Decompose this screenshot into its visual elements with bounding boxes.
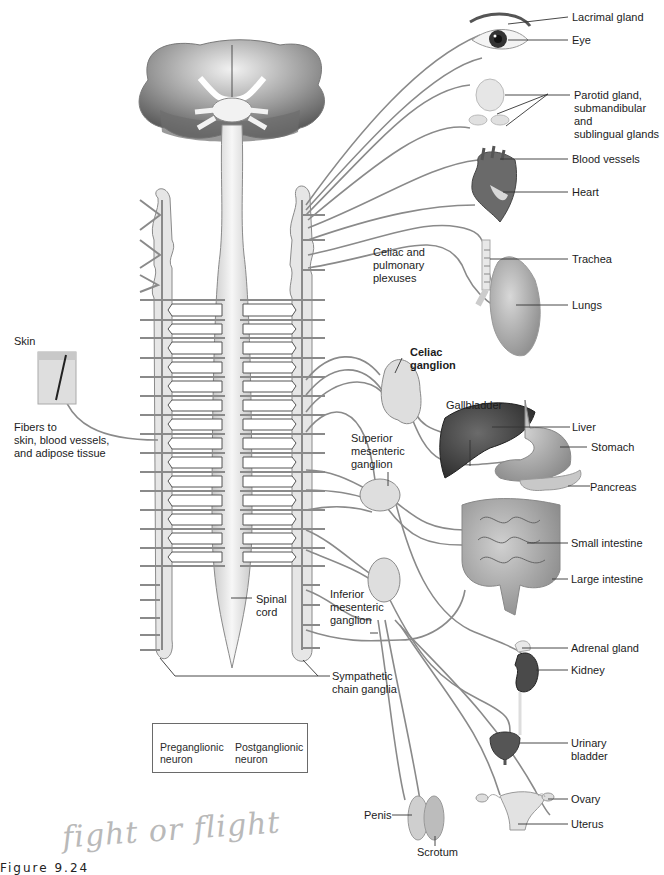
label-pancreas: Pancreas [590,481,636,494]
heart-illustration [472,146,517,222]
kidney-illustration [515,641,538,735]
lung-illustration [490,257,540,356]
urinary-bladder-illustration [490,732,520,765]
label-skin: Skin [14,335,35,348]
trachea-illustration [478,240,490,305]
eye-illustration [470,14,530,49]
label-liver: Liver [572,421,596,434]
label-penis: Penis [364,809,392,822]
skin-illustration [38,352,76,404]
label-small-intestine: Small intestine [571,537,643,550]
label-large-intestine: Large intestine [571,573,643,586]
label-sympathetic-chain-ganglia: Sympathetic chain ganglia [332,670,397,696]
label-ovary: Ovary [571,793,600,806]
label-kidney: Kidney [571,664,605,677]
legend: Preganglionic neuron Postganglionic neur… [152,723,308,773]
label-blood-vessels: Blood vessels [572,153,640,166]
label-celiac-pulmonary-plexuses: Celiac and pulmonary plexuses [373,246,425,285]
legend-postganglionic-label: Postganglionic neuron [235,741,303,765]
label-gallbladder: Gallbladder [446,399,502,412]
legend-preganglionic-label: Preganglionic neuron [160,741,224,765]
label-stomach: Stomach [591,441,634,454]
label-skin-fibers: Fibers to skin, blood vessels, and adipo… [14,421,109,460]
label-celiac-ganglion: Celiac ganglion [410,346,456,372]
label-lacrimal-gland: Lacrimal gland [572,11,644,24]
adrenal-gland [515,641,530,652]
label-eye: Eye [572,34,591,47]
left-ovary [476,794,488,802]
salivary-glands [469,79,509,125]
superior-mesenteric-ganglion [360,479,400,511]
label-trachea: Trachea [572,253,612,266]
label-spinal-cord: Spinal cord [256,593,287,619]
label-heart: Heart [572,186,599,199]
label-salivary-glands: Parotid gland, submandibular and subling… [574,89,664,141]
figure-caption: Figure 9.24 [0,861,89,875]
label-scrotum: Scrotum [417,846,458,859]
label-uterus: Uterus [571,818,603,831]
label-urinary-bladder: Urinary bladder [571,737,608,763]
male-genitalia-illustration [408,796,444,840]
intestines-illustration [462,499,560,615]
label-lungs: Lungs [572,299,602,312]
label-inferior-mesenteric-ganglion: Inferior mesenteric ganglion [330,588,384,627]
label-adrenal-gland: Adrenal gland [571,642,639,655]
label-superior-mesenteric-ganglion: Superior mesenteric ganglion [351,432,405,471]
sympathetic-nervous-system-diagram: Lacrimal gland Eye Parotid gland, subman… [0,0,664,875]
prevertebral-ganglia [360,360,421,602]
